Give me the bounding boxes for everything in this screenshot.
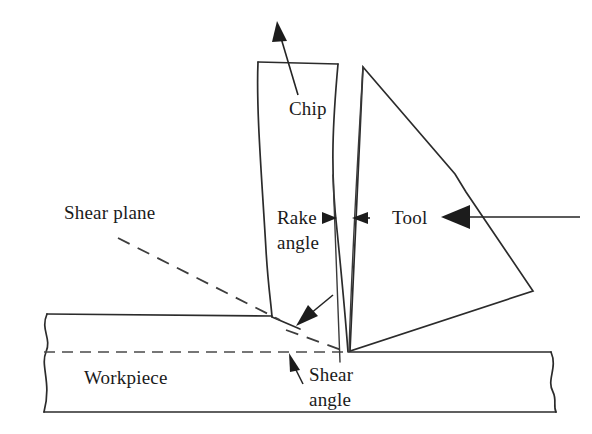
workpiece-right-break-edge [551, 352, 556, 412]
workpiece-uncut-top-surface [47, 314, 272, 316]
tool-leader-arrow-head [441, 205, 470, 229]
workpiece-left-break-edge [44, 314, 48, 412]
shear-plane-leader-line [118, 238, 280, 320]
shear-plane-line [286, 330, 347, 352]
chip-group: Chip [258, 21, 348, 352]
chip-top-edge [258, 62, 338, 64]
machining-diagram-figure: Workpiece Chip Tool [0, 0, 592, 434]
shear-angle-label-line2: angle [309, 389, 351, 410]
rake-angle-label-line1: Rake [277, 207, 317, 228]
shear-plane-label: Shear plane [64, 202, 155, 223]
shear-zone-arrow-head [296, 305, 318, 326]
shear-angle-arrow-head [289, 353, 300, 372]
shear-angle-group: Shear angle [289, 353, 354, 410]
tool-group: Tool [349, 67, 580, 351]
rake-angle-label-line2: angle [277, 232, 319, 253]
machining-diagram-svg: Workpiece Chip Tool [0, 0, 592, 434]
shear-angle-label-line1: Shear [309, 364, 354, 385]
chip-left-edge [258, 62, 272, 317]
workpiece-label: Workpiece [84, 367, 168, 388]
chip-right-edge [333, 64, 348, 352]
chip-label: Chip [289, 98, 327, 119]
chip-flow-arrow-head [272, 21, 287, 42]
rake-angle-datum-line [333, 175, 340, 362]
tool-label: Tool [392, 207, 427, 228]
tool-body-outline [350, 67, 533, 351]
chip-flow-arrow-line [281, 38, 298, 95]
